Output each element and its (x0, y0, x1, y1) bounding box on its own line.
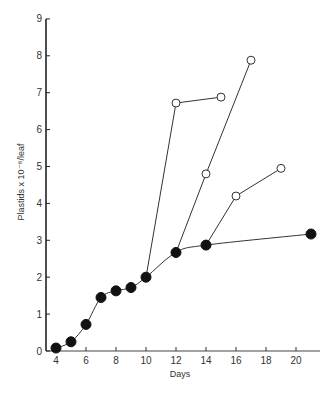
y-tick-label: 0 (36, 346, 42, 357)
series-markers (51, 56, 316, 353)
open-data-point (217, 93, 225, 101)
x-tick-label: 14 (200, 355, 212, 366)
x-tick-label: 12 (170, 355, 182, 366)
x-tick-label: 6 (83, 355, 89, 366)
filled-data-point (126, 283, 136, 293)
y-tick-label: 4 (36, 198, 42, 209)
axes: 0123456789468101214161820 (36, 13, 320, 366)
x-tick-label: 10 (140, 355, 152, 366)
series-line (206, 168, 281, 245)
y-tick-label: 2 (36, 272, 42, 283)
y-axis-title: Plastids x 10⁻⁸/leaf (16, 143, 26, 220)
filled-data-point (51, 343, 61, 353)
series-line (56, 234, 311, 348)
open-data-point (172, 99, 180, 107)
filled-data-point (141, 272, 151, 282)
filled-data-point (96, 292, 106, 302)
x-tick-label: 18 (260, 355, 272, 366)
filled-data-point (201, 240, 211, 250)
y-tick-label: 3 (36, 235, 42, 246)
x-axis-title: Days (170, 369, 191, 379)
x-tick-label: 20 (290, 355, 302, 366)
series-line (176, 60, 251, 252)
y-tick-label: 8 (36, 50, 42, 61)
y-tick-label: 1 (36, 309, 42, 320)
open-data-point (247, 56, 255, 64)
series-line (146, 97, 221, 277)
y-tick-label: 6 (36, 124, 42, 135)
plastid-growth-chart: 0123456789468101214161820 Days Plastids … (0, 0, 336, 394)
y-tick-label: 9 (36, 13, 42, 24)
open-data-point (277, 164, 285, 172)
x-tick-label: 16 (230, 355, 242, 366)
x-tick-label: 8 (113, 355, 119, 366)
open-data-point (232, 192, 240, 200)
series-lines (56, 60, 311, 348)
filled-data-point (171, 247, 181, 257)
filled-data-point (111, 286, 121, 296)
y-tick-label: 7 (36, 87, 42, 98)
filled-data-point (81, 319, 91, 329)
x-tick-label: 4 (53, 355, 59, 366)
open-data-point (202, 170, 210, 178)
filled-data-point (66, 337, 76, 347)
y-tick-label: 5 (36, 161, 42, 172)
filled-data-point (306, 229, 316, 239)
